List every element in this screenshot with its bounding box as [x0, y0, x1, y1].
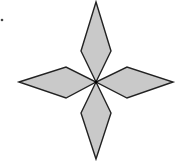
center-point: [95, 81, 98, 84]
petal-top: [81, 2, 111, 82]
four-point-star-diagram: [0, 0, 182, 161]
petal-left: [19, 67, 96, 98]
petal-right: [96, 67, 173, 98]
marker-dot: [1, 19, 4, 22]
petal-bottom: [81, 82, 111, 159]
star-petals: [19, 2, 173, 159]
